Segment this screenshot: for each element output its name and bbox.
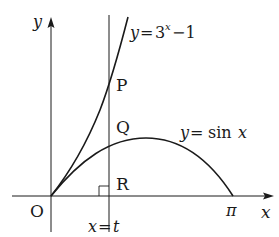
point-p-label: P: [116, 75, 127, 95]
x-axis-label: x: [261, 202, 271, 222]
point-r-label: R: [116, 174, 130, 194]
vline-label-lhs: x: [88, 217, 97, 236]
point-q-label: Q: [116, 117, 130, 137]
exp-label-base: 3: [155, 23, 165, 42]
sine-label-eq: =: [190, 123, 203, 142]
vertical-line-label: x = t: [88, 217, 120, 236]
curve-exponential: [51, 17, 128, 196]
sine-label-func: sin: [208, 123, 232, 142]
exp-label-exponent: x: [165, 21, 171, 32]
vline-label-eq: =: [98, 217, 111, 236]
sine-curve-label: y = sin x: [179, 123, 247, 142]
origin-label: O: [30, 201, 44, 221]
exp-label-lhs: y: [129, 23, 140, 42]
pi-tick-label: π: [225, 201, 237, 220]
curve-sine: [51, 138, 233, 196]
y-axis-label: y: [32, 12, 43, 31]
sine-label-var: x: [238, 123, 247, 142]
exponential-curve-label: y = 3 x −1: [129, 21, 196, 42]
exp-label-eq: =: [140, 23, 153, 42]
vline-label-rhs: t: [113, 217, 120, 236]
exp-label-tail: −1: [172, 23, 196, 42]
right-angle-marker: [99, 186, 109, 196]
diagram-canvas: y x O π P Q R y = 3 x −1 y = sin x x = t: [0, 0, 279, 237]
sine-label-lhs: y: [179, 123, 190, 142]
